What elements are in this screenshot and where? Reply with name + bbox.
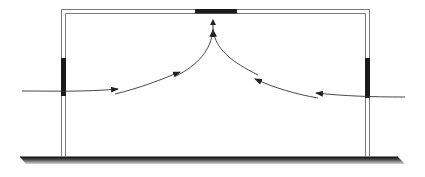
building-outline xyxy=(62,10,370,158)
arrow-left-1 xyxy=(22,89,118,91)
ground xyxy=(20,157,405,164)
arrow-left-2 xyxy=(115,72,180,94)
arrow-right-1 xyxy=(316,93,405,97)
arrow-up-icon xyxy=(210,19,216,25)
airflow-left xyxy=(22,30,213,94)
arrow-right-2 xyxy=(255,79,318,98)
roof-vent xyxy=(195,9,237,14)
ventilation-diagram xyxy=(0,0,425,177)
right-window xyxy=(365,58,370,98)
airflow-right xyxy=(213,30,405,98)
arrow-right-3 xyxy=(213,30,258,75)
airflow-exhaust xyxy=(210,19,216,34)
left-window xyxy=(61,58,66,96)
arrow-left-3 xyxy=(176,30,213,76)
